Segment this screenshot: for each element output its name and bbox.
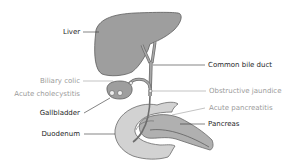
label-duodenum: Duodenum xyxy=(41,130,80,138)
label-biliary-colic: Biliary colic xyxy=(40,77,80,85)
gallstone-2 xyxy=(118,91,123,96)
liver-shape xyxy=(95,12,182,75)
leader-acute-pancreatitis xyxy=(172,108,205,115)
label-liver: Liver xyxy=(63,28,80,36)
leader-gallbladder xyxy=(84,98,110,113)
label-acute-cholecystitis: Acute cholecystitis xyxy=(14,90,80,98)
label-pancreas: Pancreas xyxy=(208,120,239,128)
label-common-bile-duct: Common bile duct xyxy=(208,61,272,69)
gallbladder-shape xyxy=(107,81,132,99)
label-obstructive-jaundice: Obstructive jaundice xyxy=(209,87,282,95)
cystic-stone xyxy=(129,81,132,84)
label-gallbladder: Gallbladder xyxy=(40,109,80,117)
label-acute-pancreatitis: Acute pancreatitis xyxy=(209,104,273,112)
gallstone-1 xyxy=(110,91,115,96)
